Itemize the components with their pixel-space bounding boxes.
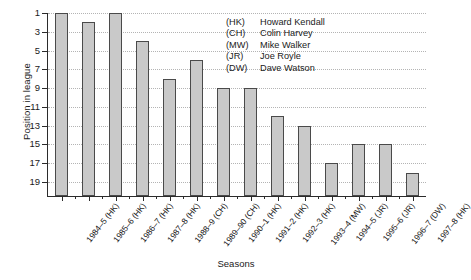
legend-item-code: (CH) [226, 28, 260, 39]
legend-item-name: Colin Harvey [260, 28, 325, 39]
legend-item-code: (JR) [226, 51, 260, 62]
bar [406, 173, 418, 196]
x-axis-tick [305, 196, 306, 201]
x-axis-minor-tick [291, 196, 292, 199]
legend-item-code: (HK) [226, 17, 260, 28]
bar [163, 79, 175, 196]
bar [190, 60, 202, 196]
x-axis-tick [62, 196, 63, 201]
x-axis-title: Seasons [47, 258, 425, 269]
bar [298, 126, 310, 196]
legend-item-code: (MW) [226, 40, 260, 51]
bar [82, 22, 94, 196]
y-axis-tick-label: 11 [30, 102, 40, 112]
y-axis-tick-label: 17 [29, 158, 40, 168]
x-axis-minor-tick [318, 196, 319, 199]
x-axis-minor-tick [399, 196, 400, 199]
legend-item-name: Joe Royle [260, 51, 325, 62]
y-axis-tick-label: 3 [35, 27, 40, 37]
legend-item-code: (DW) [226, 63, 260, 74]
x-axis-tick [224, 196, 225, 201]
legend-item: (JR)Joe Royle [226, 51, 325, 62]
legend-item: (CH)Colin Harvey [226, 28, 325, 39]
x-axis-minor-tick [156, 196, 157, 199]
y-axis-tick-label: 15 [29, 140, 40, 150]
legend-item-name: Howard Kendall [260, 17, 325, 28]
bar [325, 163, 337, 196]
y-axis-tick-label: 19 [29, 177, 40, 187]
x-axis-minor-tick [75, 196, 76, 199]
x-axis-tick [332, 196, 333, 201]
bar [109, 13, 121, 196]
legend-item-name: Mike Walker [260, 40, 325, 51]
bar [244, 88, 256, 196]
x-axis-minor-tick [102, 196, 103, 199]
x-axis-tick [116, 196, 117, 201]
legend-item-name: Dave Watson [260, 63, 325, 74]
x-axis-minor-tick [210, 196, 211, 199]
legend-item: (MW)Mike Walker [226, 40, 325, 51]
y-axis-tick-label: 9 [35, 83, 40, 93]
x-axis-minor-tick [183, 196, 184, 199]
x-axis-tick [413, 196, 414, 201]
x-axis-tick [197, 196, 198, 201]
y-axis-tick-label: 1 [35, 8, 40, 18]
x-axis-tick [89, 196, 90, 201]
legend-item: (DW)Dave Watson [226, 63, 325, 74]
bar [271, 116, 283, 196]
bar [352, 144, 364, 196]
x-axis-tick [143, 196, 144, 201]
x-axis-minor-tick [345, 196, 346, 199]
bar [379, 144, 391, 196]
bar [136, 41, 148, 196]
x-axis-minor-tick [264, 196, 265, 199]
x-axis-minor-tick [129, 196, 130, 199]
x-axis-tick [170, 196, 171, 201]
legend: (HK)Howard Kendall(CH)Colin Harvey(MW)Mi… [226, 17, 325, 74]
y-axis-tick-label: 7 [35, 65, 40, 75]
legend-item: (HK)Howard Kendall [226, 17, 325, 28]
bar [217, 88, 229, 196]
x-axis-tick [386, 196, 387, 201]
bar [55, 13, 67, 196]
x-axis-minor-tick [372, 196, 373, 199]
y-axis-tick-label: 13 [29, 121, 40, 131]
x-axis-tick [251, 196, 252, 201]
x-axis-minor-tick [237, 196, 238, 199]
x-axis-tick [278, 196, 279, 201]
y-axis-tick-label: 5 [35, 46, 40, 56]
